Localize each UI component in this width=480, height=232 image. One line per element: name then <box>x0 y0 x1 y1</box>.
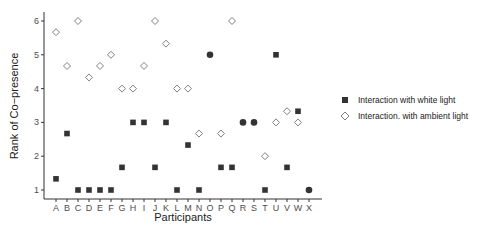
ambient-light-point <box>75 18 82 25</box>
legend-label: Interaction. with ambient light <box>358 111 468 121</box>
white-light-point <box>196 187 202 193</box>
ambient-light-point <box>141 62 148 69</box>
y-tick-label: 6 <box>34 16 39 26</box>
ambient-light-point <box>97 62 104 69</box>
data-points <box>53 18 313 194</box>
overlap-point <box>240 119 247 126</box>
white-light-point <box>130 120 136 126</box>
white-light-point <box>284 165 290 171</box>
ambient-light-point <box>273 119 280 126</box>
filled-square-icon <box>338 93 352 107</box>
white-light-point <box>152 165 158 171</box>
ambient-light-point <box>108 51 115 58</box>
white-light-point <box>218 165 224 171</box>
ambient-light-point <box>130 85 137 92</box>
white-light-point <box>64 131 70 137</box>
overlap-point <box>251 119 258 126</box>
open-diamond-icon <box>338 109 352 123</box>
x-tick-label: E <box>97 203 103 213</box>
overlap-point <box>306 187 313 194</box>
ambient-light-point <box>53 29 60 36</box>
white-light-point <box>174 187 180 193</box>
y-tick-label: 4 <box>34 84 39 94</box>
ambient-light-point <box>119 85 126 92</box>
y-axis: 123456 <box>34 12 44 199</box>
x-tick-label: F <box>108 203 114 213</box>
white-light-point <box>273 52 279 58</box>
ambient-light-point <box>229 18 236 25</box>
white-light-point <box>97 187 103 193</box>
legend-label: Interaction with white light <box>358 95 455 105</box>
ambient-light-point <box>174 85 181 92</box>
white-light-point <box>75 187 81 193</box>
ambient-light-point <box>284 108 291 115</box>
x-tick-label: D <box>86 203 93 213</box>
ambient-light-point <box>152 18 159 25</box>
x-tick-label: R <box>240 203 247 213</box>
y-axis-title: Rank of Co−presence <box>8 53 20 160</box>
ambient-light-point <box>64 62 71 69</box>
y-tick-label: 3 <box>34 117 39 127</box>
x-tick-label: V <box>284 203 290 213</box>
x-tick-label: A <box>53 203 59 213</box>
ambient-light-point <box>262 153 269 160</box>
legend: Interaction with white light Interaction… <box>338 92 468 124</box>
x-tick-label: T <box>262 203 268 213</box>
ambient-light-point <box>196 130 203 137</box>
x-tick-label: S <box>251 203 257 213</box>
white-light-point <box>141 120 147 126</box>
x-tick-label: U <box>273 203 280 213</box>
x-tick-label: P <box>218 203 224 213</box>
white-light-point <box>262 187 268 193</box>
x-tick-label: W <box>294 203 303 213</box>
y-tick-label: 2 <box>34 151 39 161</box>
x-tick-label: C <box>75 203 82 213</box>
white-light-point <box>185 142 191 148</box>
ambient-light-point <box>295 119 302 126</box>
overlap-point <box>207 52 214 59</box>
x-axis-title: Participants <box>154 211 212 223</box>
white-light-point <box>86 187 92 193</box>
white-light-point <box>119 165 125 171</box>
x-tick-label: G <box>118 203 125 213</box>
y-tick-label: 1 <box>34 185 39 195</box>
x-tick-label: X <box>306 203 312 213</box>
x-tick-label: I <box>143 203 146 213</box>
ambient-light-point <box>218 130 225 137</box>
white-light-point <box>295 108 301 114</box>
white-light-point <box>53 176 59 182</box>
ambient-light-point <box>185 85 192 92</box>
x-tick-label: B <box>64 203 70 213</box>
white-light-point <box>163 120 169 126</box>
white-light-point <box>229 165 235 171</box>
white-light-point <box>108 187 114 193</box>
x-tick-label: H <box>130 203 137 213</box>
legend-item-white-light: Interaction with white light <box>338 92 468 108</box>
x-tick-label: Q <box>228 203 235 213</box>
ambient-light-point <box>163 40 170 47</box>
legend-item-ambient-light: Interaction. with ambient light <box>338 108 468 124</box>
ambient-light-point <box>86 74 93 81</box>
y-tick-label: 5 <box>34 50 39 60</box>
